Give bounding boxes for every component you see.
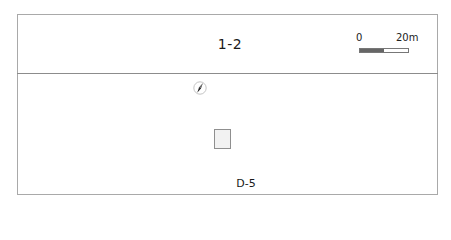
scale-bar-dark-segment [360,49,384,52]
scale-bar-light-segment [384,49,408,52]
scale-bar: 0 20m [352,32,422,54]
room-label: D-5 [226,177,266,191]
scale-start-label: 0 [356,32,362,44]
header-divider [17,73,438,74]
scale-bar-graphic [359,48,409,53]
room-d5 [214,129,231,149]
plan-title: 1-2 [210,35,250,53]
north-arrow-icon [193,80,207,94]
scale-end-label: 20m [396,32,418,44]
